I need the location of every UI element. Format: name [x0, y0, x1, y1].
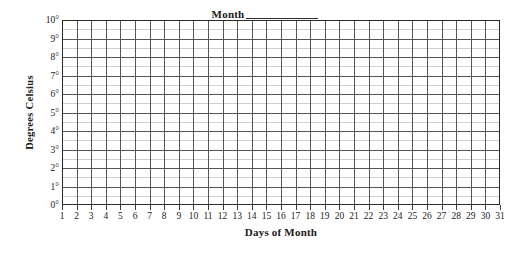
y-axis-tick-label: 3° — [50, 145, 59, 154]
y-axis-title-label: Degrees Celsius — [24, 75, 35, 150]
y-axis-tick-label: 1° — [50, 182, 59, 191]
x-axis-tick-label: 17 — [291, 210, 301, 222]
x-axis-tick-label: 14 — [247, 210, 257, 222]
y-axis-tick-label: 0° — [50, 201, 59, 210]
x-axis-tick-label: 25 — [408, 210, 418, 222]
x-axis-tick-label: 1 — [60, 210, 65, 222]
y-axis-tick-label: 10° — [46, 16, 59, 25]
x-axis-tick-label: 5 — [118, 210, 123, 222]
y-axis-tick-label: 8° — [50, 53, 59, 62]
x-axis-tick-label: 2 — [74, 210, 79, 222]
y-axis-tick-label: 7° — [50, 71, 59, 80]
x-axis-tick-label: 21 — [349, 210, 359, 222]
x-axis-tick-label: 26 — [422, 210, 432, 222]
x-axis-tick-label: 3 — [89, 210, 94, 222]
x-axis-tick-label: 29 — [466, 210, 476, 222]
x-axis-tick-label: 10 — [189, 210, 199, 222]
x-axis-tick-label: 15 — [262, 210, 272, 222]
month-blank-write-in-line[interactable] — [246, 7, 318, 19]
x-axis-tick-label: 27 — [437, 210, 447, 222]
x-axis-tick-label: 11 — [203, 210, 212, 222]
x-axis-tick-label: 8 — [162, 210, 167, 222]
y-axis-tick-label: 9° — [50, 34, 59, 43]
y-axis-tick-label: 2° — [50, 164, 59, 173]
x-axis-tick-labels: 1234567891011121314151617181920212223242… — [62, 210, 500, 223]
x-axis-tick-label: 30 — [481, 210, 491, 222]
x-axis-tick-label: 16 — [276, 210, 286, 222]
y-axis-tick-labels: 0°1°2°3°4°5°6°7°8°9°10° — [38, 20, 62, 205]
x-axis-tick-label: 13 — [232, 210, 242, 222]
x-axis-tick-label: 28 — [451, 210, 461, 222]
y-axis-tick-label: 5° — [50, 108, 59, 117]
y-axis-title: Degrees Celsius — [20, 20, 38, 205]
x-axis-tick-label: 22 — [364, 210, 374, 222]
x-axis-tick-label: 31 — [495, 210, 505, 222]
x-axis-tick-label: 12 — [218, 210, 228, 222]
y-axis-tick-label: 4° — [50, 127, 59, 136]
grid-lines — [62, 20, 500, 205]
x-axis-tick-label: 20 — [335, 210, 345, 222]
x-axis-tick-label: 24 — [393, 210, 403, 222]
x-axis-tick-label: 23 — [378, 210, 388, 222]
chart-title: Month — [0, 4, 530, 20]
x-axis-tick-label: 6 — [133, 210, 138, 222]
x-axis-tick-label: 7 — [147, 210, 152, 222]
plot-area[interactable] — [62, 20, 500, 205]
x-axis-title: Days of Month — [62, 226, 500, 238]
x-axis-tick-label: 18 — [305, 210, 315, 222]
x-axis-tick-label: 4 — [103, 210, 108, 222]
x-axis-tick-label: 19 — [320, 210, 330, 222]
x-axis-tick-label: 9 — [176, 210, 181, 222]
y-axis-tick-label: 6° — [50, 90, 59, 99]
chart-title-label: Month — [212, 8, 247, 20]
